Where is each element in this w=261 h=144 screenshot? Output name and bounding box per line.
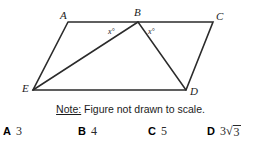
vertex-label-e: E <box>22 83 29 94</box>
answer-choice-c-letter: C <box>148 125 156 137</box>
radical-sign: √ <box>226 124 233 139</box>
diagonal-bd <box>138 22 186 90</box>
question-figure-screen: A B C D E x° x° Note: Figure not drawn t… <box>0 0 261 144</box>
answer-choice-b[interactable]: B 4 <box>78 124 97 139</box>
angle-label-abe: x° <box>108 28 115 36</box>
figure-note-text: Note: Figure not drawn to scale. <box>56 103 205 115</box>
answer-choice-a-value: 3 <box>16 124 22 139</box>
figure-note-prefix: Note: <box>56 103 81 115</box>
answer-choice-d-radical: √ 3 <box>226 124 241 139</box>
geometry-figure: A B C D E x° x° <box>0 0 261 100</box>
vertex-label-b: B <box>134 7 141 18</box>
figure-note-body: Figure not drawn to scale. <box>81 103 205 115</box>
answer-choice-d[interactable]: D 3 √ 3 <box>207 124 241 139</box>
vertex-label-d: D <box>190 86 198 97</box>
answer-choice-b-value: 4 <box>91 124 97 139</box>
answer-choice-b-letter: B <box>78 125 86 137</box>
answer-choice-a-letter: A <box>3 125 11 137</box>
answer-choice-d-radicand: 3 <box>233 125 241 139</box>
answer-choice-d-letter: D <box>207 125 215 137</box>
answer-choice-c-value: 5 <box>161 124 167 139</box>
answer-choice-a[interactable]: A 3 <box>3 124 22 139</box>
answer-choices: A 3 B 4 C 5 D 3 √ 3 <box>0 124 261 144</box>
answer-choice-c[interactable]: C 5 <box>148 124 167 139</box>
angle-label-dbc: x° <box>148 28 155 36</box>
figure-note: Note: Figure not drawn to scale. <box>0 100 261 118</box>
vertex-label-c: C <box>216 11 223 22</box>
diagonal-eb <box>33 22 138 90</box>
vertex-label-a: A <box>60 10 67 21</box>
